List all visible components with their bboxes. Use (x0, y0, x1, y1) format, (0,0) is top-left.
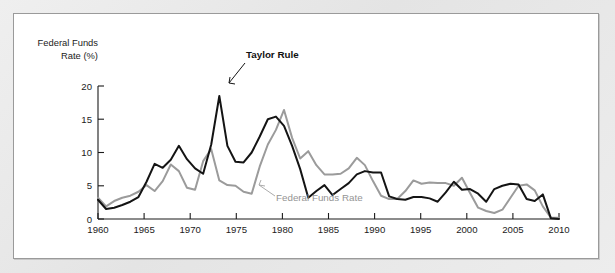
annotation-arrowhead-taylor-rule (229, 77, 235, 84)
x-tick-label-2010: 2010 (548, 224, 569, 235)
annotation-label-federal-funds-rate: Federal Funds Rate (276, 192, 363, 203)
figure-root: Federal Funds Rate (%) 20 15 10 5 0 (0, 0, 615, 273)
y-tick-label-10: 10 (81, 147, 92, 158)
y-tick-label-15: 15 (81, 114, 92, 125)
chart-panel: Federal Funds Rate (%) 20 15 10 5 0 (13, 13, 599, 259)
y-tick-label-20: 20 (81, 81, 92, 92)
x-tick-label-1960: 1960 (87, 224, 108, 235)
x-axis-ticks (98, 213, 559, 219)
x-tick-label-1980: 1980 (272, 224, 293, 235)
x-tick-label-1975: 1975 (226, 224, 247, 235)
x-tick-label-2005: 2005 (502, 224, 523, 235)
x-tick-label-1985: 1985 (318, 224, 339, 235)
x-tick-label-1965: 1965 (133, 224, 154, 235)
x-axis-tick-labels: 1960 1965 1970 1975 1980 1985 1990 1995 … (87, 224, 569, 235)
y-axis-label-line1: Federal Funds (38, 37, 99, 48)
y-tick-label-5: 5 (87, 180, 92, 191)
annotation-label-taylor-rule: Taylor Rule (246, 49, 299, 60)
x-tick-label-1970: 1970 (180, 224, 201, 235)
x-tick-label-1995: 1995 (410, 224, 431, 235)
y-tick-label-0: 0 (87, 214, 92, 225)
annotation-leader-taylor-rule (229, 63, 245, 83)
x-tick-label-1990: 1990 (364, 224, 385, 235)
y-axis-label-line2: Rate (%) (61, 50, 98, 61)
federal-funds-taylor-rule-chart: Federal Funds Rate (%) 20 15 10 5 0 (14, 14, 598, 258)
annotation-leader-federal-funds-rate (259, 185, 275, 196)
y-axis-tick-labels: 20 15 10 5 0 (81, 81, 92, 225)
annotation-arrowhead-federal-funds-rate (259, 180, 265, 186)
x-tick-label-2000: 2000 (456, 224, 477, 235)
